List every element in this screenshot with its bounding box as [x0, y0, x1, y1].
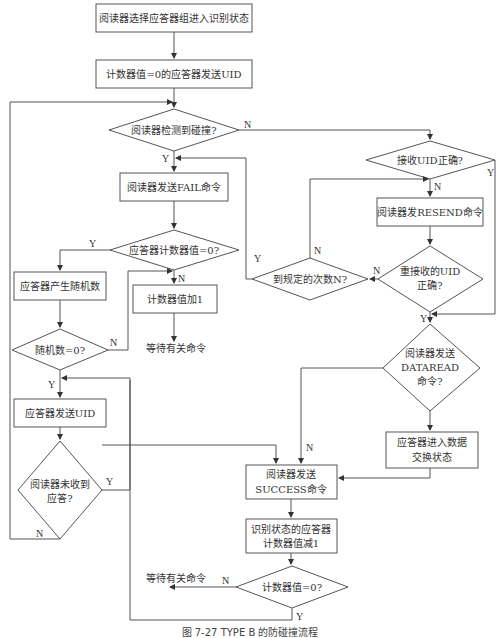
- label-counter-zero-n: N: [178, 273, 185, 284]
- node-gen-random: 应答器产生随机数: [14, 272, 106, 300]
- node-enter-exchange: 应答器进入数据 交换状态: [386, 432, 478, 468]
- node-send-success-text-2: SUCCESS命令: [255, 483, 326, 495]
- decision-dataread-text-1: 阅读器发送: [405, 347, 455, 359]
- decision-random-zero: 随机数=0?: [12, 329, 108, 370]
- decision-reach-n: 到规定的次数N?: [252, 258, 368, 300]
- label-recv-uid-y: Y: [487, 167, 494, 178]
- label-random-zero-n: N: [110, 337, 117, 348]
- node-send-resend-text: 阅读器发RESEND命令: [377, 206, 483, 218]
- flowchart: 阅读器选择应答器组进入识别状态 计数器值=0的应答器发送UID 阅读器检测到碰撞…: [0, 0, 500, 638]
- decision-dataread-text-2: DATAREAD: [401, 362, 459, 373]
- node-counter-inc-text: 计数器值加1: [147, 293, 203, 305]
- decision-re-recv-ok-text-1: 重接收的UID: [400, 265, 460, 277]
- label-no-reply-n: N: [36, 528, 43, 539]
- label-re-recv-y: Y: [420, 313, 427, 324]
- node-counter-inc: 计数器值加1: [133, 285, 217, 313]
- decision-collision-text: 阅读器检测到碰撞?: [131, 124, 216, 136]
- node-send-uid-zero: 计数器值=0的应答器发送UID: [96, 60, 252, 88]
- decision-dataread-text-3: 命令?: [417, 375, 442, 387]
- node-dec-counter-text-2: 计数器值减1: [263, 537, 319, 549]
- decision-re-recv-ok: 重接收的UID 正确?: [378, 246, 483, 312]
- label-counter-val-zero-y: Y: [296, 611, 303, 622]
- label-no-reply-y: Y: [106, 476, 113, 487]
- label-re-recv-n: N: [373, 265, 380, 276]
- node-send-uid-text: 应答器发送UID: [25, 407, 95, 419]
- node-start-text: 阅读器选择应答器组进入识别状态: [99, 12, 249, 24]
- decision-counter-val-zero: 计数器值=0?: [236, 566, 348, 608]
- decision-collision: 阅读器检测到碰撞?: [109, 109, 239, 151]
- node-gen-random-text: 应答器产生随机数: [20, 280, 100, 292]
- decision-random-zero-text: 随机数=0?: [35, 344, 85, 356]
- node-send-fail-text: 阅读器发送FAIL命令: [127, 181, 221, 193]
- node-send-resend: 阅读器发RESEND命令: [377, 198, 483, 226]
- label-counter-zero-y: Y: [89, 238, 96, 249]
- node-send-fail: 阅读器发送FAIL命令: [120, 173, 228, 201]
- decision-recv-uid-ok-text: 接收UID正确?: [397, 154, 463, 166]
- decision-counter-val-zero-text: 计数器值=0?: [262, 581, 322, 593]
- decision-re-recv-ok-text-2: 正确?: [417, 279, 442, 291]
- node-send-success-text-1: 阅读器发送: [266, 468, 316, 480]
- node-send-uid-zero-text: 计数器值=0的应答器发送UID: [106, 68, 241, 80]
- node-dec-counter: 识别状态的应答器 计数器值减1: [246, 519, 337, 553]
- label-reach-n-n: N: [314, 245, 321, 256]
- label-reach-n-y: Y: [254, 253, 261, 264]
- decision-dataread: 阅读器发送 DATAREAD 命令?: [383, 324, 480, 411]
- decision-no-reply-text-1: 阅读器未收到: [30, 478, 90, 490]
- label-collision-y: Y: [162, 153, 169, 164]
- label-dataread-n: N: [306, 442, 313, 453]
- wait-command-1: 等待有关命令: [146, 342, 206, 354]
- decision-counter-zero: 应答器计数器值=0?: [110, 230, 239, 270]
- decision-reach-n-text: 到规定的次数N?: [273, 273, 347, 285]
- wait-command-2: 等待有关命令: [146, 572, 206, 584]
- label-random-zero-y: Y: [48, 379, 55, 390]
- decision-no-reply: 阅读器未收到 应答?: [18, 441, 102, 539]
- decision-counter-zero-text: 应答器计数器值=0?: [129, 244, 219, 256]
- node-dec-counter-text-1: 识别状态的应答器: [251, 523, 331, 535]
- node-enter-exchange-text-2: 交换状态: [412, 451, 452, 463]
- figure-caption: 图 7-27 TYPE B 的防碰撞流程: [182, 626, 319, 638]
- node-send-uid: 应答器发送UID: [14, 399, 106, 427]
- decision-no-reply-text-2: 应答?: [47, 492, 72, 504]
- label-collision-n: N: [244, 119, 251, 130]
- node-enter-exchange-text-1: 应答器进入数据: [397, 436, 467, 448]
- label-counter-val-zero-n: N: [222, 575, 229, 586]
- node-start: 阅读器选择应答器组进入识别状态: [96, 4, 252, 32]
- decision-recv-uid-ok: 接收UID正确?: [366, 141, 495, 179]
- label-recv-uid-n: N: [434, 181, 441, 192]
- node-send-success: 阅读器发送 SUCCESS命令: [246, 465, 337, 499]
